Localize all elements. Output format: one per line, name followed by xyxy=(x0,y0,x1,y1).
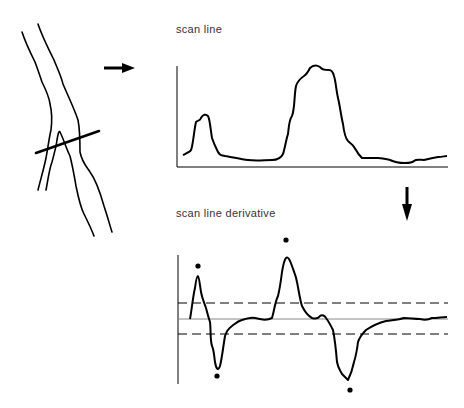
scan-line-profile xyxy=(177,66,448,167)
profile-curve xyxy=(183,66,447,163)
vessel-sketch xyxy=(22,24,112,236)
scan-line-label: scan line xyxy=(176,23,222,35)
vessel-outer-left-wall xyxy=(22,32,52,190)
extrema-marker-min-2 xyxy=(347,387,352,392)
right-arrow-icon xyxy=(104,63,135,73)
extrema-marker-min-1 xyxy=(214,373,219,378)
scan-line-derivative-label: scan line derivative xyxy=(176,207,276,219)
extrema-marker-max-1 xyxy=(195,263,200,268)
scan-line-derivative xyxy=(178,237,448,392)
diagram-canvas xyxy=(0,0,464,408)
vessel-outer-right-wall xyxy=(38,24,112,232)
down-arrow-icon xyxy=(402,187,412,221)
extrema-marker-max-2 xyxy=(283,237,288,242)
